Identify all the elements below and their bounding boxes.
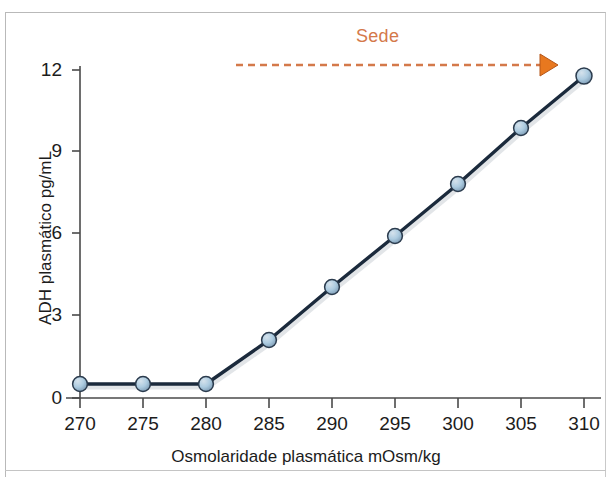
- x-tick-label-285: 285: [239, 414, 299, 433]
- data-line: [80, 76, 584, 384]
- data-point: [514, 121, 529, 136]
- y-axis-ticks: [72, 70, 80, 398]
- data-point: [73, 377, 88, 392]
- data-point-markers: [73, 68, 592, 391]
- x-tick-label-270: 270: [50, 414, 110, 433]
- x-axis-title: Osmolaridade plasmática mOsm/kg: [0, 447, 612, 467]
- sede-arrow: [236, 54, 558, 76]
- plot-area: [0, 0, 612, 483]
- data-point: [262, 333, 277, 348]
- x-tick-label-305: 305: [491, 414, 551, 433]
- sede-annotation-label: Sede: [356, 26, 399, 47]
- data-point: [388, 229, 403, 244]
- data-point: [136, 377, 151, 392]
- x-tick-label-290: 290: [302, 414, 362, 433]
- x-tick-label-295: 295: [365, 414, 425, 433]
- x-tick-label-310: 310: [554, 414, 612, 433]
- x-tick-label-300: 300: [428, 414, 488, 433]
- data-line-shadow: [82, 79, 586, 387]
- y-tick-label-12: 12: [22, 60, 62, 79]
- y-axis-title: ADH plasmático pg/mL: [36, 88, 56, 388]
- x-axis-ticks: [80, 398, 584, 408]
- x-tick-label-280: 280: [176, 414, 236, 433]
- data-point: [199, 377, 214, 392]
- data-point: [451, 177, 466, 192]
- data-point: [576, 68, 592, 84]
- data-point: [325, 280, 340, 295]
- y-tick-label-0: 0: [22, 388, 62, 407]
- x-tick-label-275: 275: [113, 414, 173, 433]
- chart-figure: 12 9 6 3 0 270 275 280 285 290 295 300 3…: [0, 0, 612, 483]
- sede-arrow-head: [540, 54, 558, 76]
